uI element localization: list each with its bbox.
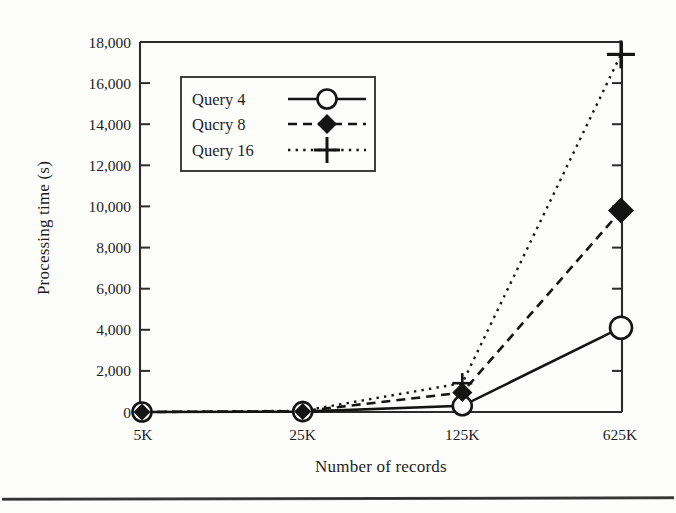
y-tick-label: 4,000 bbox=[96, 321, 131, 338]
y-tick-label: 10,000 bbox=[88, 198, 131, 215]
legend-label: Qucry 8 bbox=[192, 115, 246, 134]
x-tick-label: 625K bbox=[603, 426, 638, 443]
y-tick-label: 16,000 bbox=[88, 75, 131, 92]
series-query-4 bbox=[133, 317, 633, 422]
y-tick-label: 18,000 bbox=[88, 34, 131, 51]
marker-diamond-group bbox=[132, 198, 634, 422]
y-tick-label: 6,000 bbox=[96, 280, 131, 297]
y-tick-label: 8,000 bbox=[96, 239, 131, 256]
chart-figure: 0 2,000 4,000 6,000 8,000 10,000 12,000 … bbox=[0, 0, 676, 513]
y-tick-label: 14,000 bbox=[88, 116, 131, 133]
legend-label: Query 4 bbox=[192, 90, 246, 109]
x-axis-title: Number of records bbox=[315, 457, 447, 476]
legend-label: Query 16 bbox=[192, 141, 254, 160]
y-tick-label: 2,000 bbox=[96, 362, 131, 379]
marker-circle-group bbox=[133, 317, 633, 422]
chart-legend: Query 4 Qucry 8 Query 16 bbox=[181, 77, 375, 171]
plus-icon bbox=[607, 40, 635, 68]
x-tick-label: 125K bbox=[445, 426, 480, 443]
x-tick-labels: 5K 25K 125K 625K bbox=[134, 426, 639, 443]
x-tick-label: 5K bbox=[134, 426, 154, 443]
open-circle-icon bbox=[318, 90, 337, 109]
open-circle-icon bbox=[610, 317, 632, 339]
page-root: 0 2,000 4,000 6,000 8,000 10,000 12,000 … bbox=[0, 0, 676, 513]
y-tick-label: 0 bbox=[123, 404, 131, 421]
y-tick-label: 12,000 bbox=[88, 157, 131, 174]
filled-diamond-icon bbox=[608, 198, 634, 224]
y-axis-ticks bbox=[140, 83, 150, 412]
series-query-8 bbox=[132, 198, 634, 422]
y-axis-title: Processing time (s) bbox=[34, 161, 53, 295]
x-tick-label: 25K bbox=[289, 426, 317, 443]
chart-canvas: 0 2,000 4,000 6,000 8,000 10,000 12,000 … bbox=[0, 0, 676, 513]
y-tick-labels: 0 2,000 4,000 6,000 8,000 10,000 12,000 … bbox=[88, 34, 131, 421]
